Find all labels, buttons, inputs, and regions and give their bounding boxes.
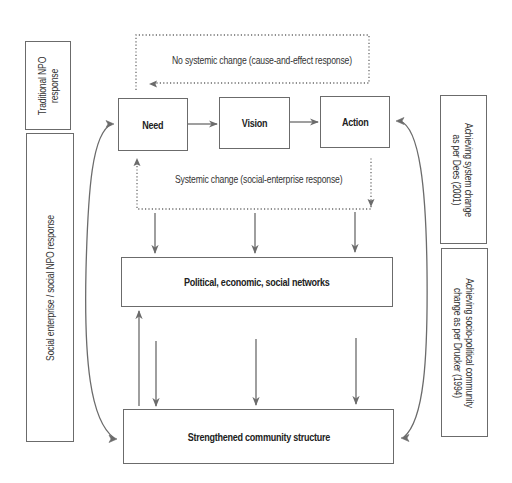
left-curve-arrowhead-top (106, 121, 114, 128)
right-curved-feedback-arrow (400, 121, 427, 437)
drucker-label: Achieving socio-political community chan… (453, 278, 477, 408)
traditional-npo-box: Traditional NPO response (25, 41, 71, 130)
networks-label: Political, economic, social networks (184, 276, 330, 288)
drucker-box: Achieving socio-political community chan… (441, 248, 488, 437)
community-box: Strengthened community structure (123, 409, 394, 464)
systemic-arrowhead-up (134, 158, 141, 166)
dees-label: Achieving system change as per Dees (200… (452, 123, 476, 217)
action-label: Action (342, 116, 369, 128)
left-curve-arrowhead-bottom (109, 435, 117, 443)
vision-box: Vision (219, 97, 290, 149)
no-systemic-change-arrowhead (149, 81, 157, 88)
need-box: Need (118, 98, 188, 151)
dees-box: Achieving system change as per Dees (200… (440, 95, 487, 244)
need-label: Need (142, 119, 163, 131)
action-box: Action (320, 96, 390, 148)
traditional-npo-label: Traditional NPO response (36, 56, 60, 114)
social-enterprise-label: Social enterprise / social NPO response (44, 215, 56, 361)
left-curved-feedback-arrow (86, 124, 114, 438)
community-label: Strengthened community structure (187, 431, 329, 443)
systemic-change-caption: Systemic change (social-enterprise respo… (175, 173, 342, 185)
no-systemic-change-caption: No systemic change (cause-and-effect res… (172, 54, 352, 66)
vision-label: Vision (242, 117, 267, 129)
right-curve-arrowhead-top (396, 118, 404, 125)
networks-box: Political, economic, social networks (121, 257, 393, 307)
social-enterprise-box: Social enterprise / social NPO response (26, 133, 74, 442)
